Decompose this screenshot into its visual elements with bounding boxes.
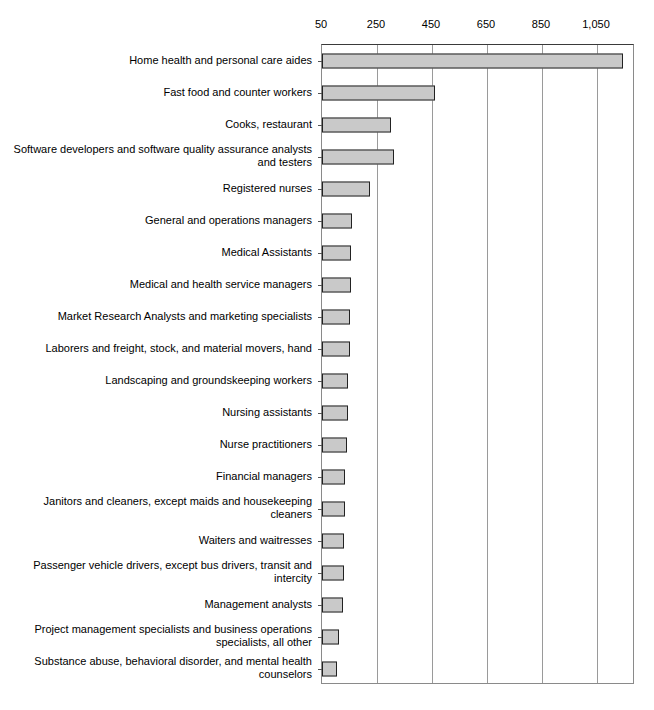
x-axis-tick-label: 650 [477, 18, 495, 30]
bar [322, 182, 370, 197]
bar [322, 566, 344, 581]
bar [322, 438, 347, 453]
category-label: Passenger vehicle drivers, except bus dr… [2, 559, 312, 585]
category-label: Waiters and waitresses [2, 534, 312, 547]
bar [322, 630, 339, 645]
bar [322, 374, 348, 389]
category-label: Substance abuse, behavioral disorder, an… [2, 655, 312, 681]
category-label: Registered nurses [2, 182, 312, 195]
category-label: Laborers and freight, stock, and materia… [2, 342, 312, 355]
bar [322, 502, 345, 517]
category-label: Landscaping and groundskeeping workers [2, 374, 312, 387]
x-axis-tick-label: 1,050 [582, 18, 610, 30]
x-axis-tick-label: 250 [367, 18, 385, 30]
bar [322, 150, 394, 165]
bar [322, 246, 351, 261]
category-label-column: Home health and personal care aidesFast … [0, 44, 318, 684]
gridline [432, 45, 433, 683]
gridline [597, 45, 598, 683]
bar [322, 342, 350, 357]
gridline [487, 45, 488, 683]
category-label: Cooks, restaurant [2, 118, 312, 131]
chart-body: Home health and personal care aidesFast … [0, 44, 654, 684]
bar [322, 214, 352, 229]
bar [322, 278, 351, 293]
x-axis-tick-label: 50 [315, 18, 327, 30]
category-label: Nurse practitioners [2, 438, 312, 451]
bar [322, 406, 348, 421]
category-label: Software developers and software quality… [2, 143, 312, 169]
x-axis-tick-labels: 502504506508501,050 [0, 0, 654, 44]
category-label: Medical and health service managers [2, 278, 312, 291]
bar [322, 310, 350, 325]
bar [322, 662, 337, 677]
bar [322, 86, 435, 101]
bar [322, 470, 345, 485]
bar-chart: 502504506508501,050 Home health and pers… [0, 0, 654, 710]
category-label: Market Research Analysts and marketing s… [2, 310, 312, 323]
gridline [542, 45, 543, 683]
category-label: Project management specialists and busin… [2, 623, 312, 649]
category-label: Fast food and counter workers [2, 86, 312, 99]
bar [322, 534, 344, 549]
category-label: Financial managers [2, 470, 312, 483]
x-axis-tick-label: 850 [532, 18, 550, 30]
gridline [377, 45, 378, 683]
bar [322, 598, 343, 613]
category-label: Medical Assistants [2, 246, 312, 259]
bar [322, 54, 623, 69]
bar [322, 118, 391, 133]
plot-area [321, 44, 634, 684]
category-label: Management analysts [2, 598, 312, 611]
category-label: General and operations managers [2, 214, 312, 227]
x-axis-tick-label: 450 [422, 18, 440, 30]
category-label: Home health and personal care aides [2, 54, 312, 67]
category-label: Nursing assistants [2, 406, 312, 419]
category-label: Janitors and cleaners, except maids and … [2, 495, 312, 521]
